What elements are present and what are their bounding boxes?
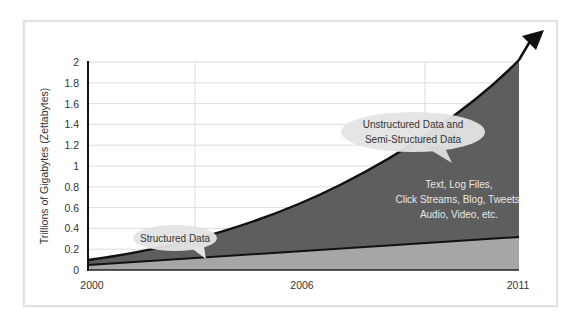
svg-text:2: 2 — [73, 56, 79, 68]
svg-text:1: 1 — [73, 160, 79, 172]
svg-text:0.6: 0.6 — [64, 202, 79, 214]
svg-text:Text, Log Files,: Text, Log Files, — [425, 179, 492, 190]
x-tick-2006: 2006 — [290, 279, 314, 291]
y-tick-labels: 0 0.2 0.4 0.6 0.8 1 1.2 1.4 1.6 1.8 2 — [64, 56, 79, 276]
svg-text:0.8: 0.8 — [64, 181, 79, 193]
svg-text:1.8: 1.8 — [64, 77, 79, 89]
x-tick-2000: 2000 — [80, 279, 104, 291]
svg-text:Audio, Video, etc.: Audio, Video, etc. — [420, 209, 498, 220]
area-chart: 0 0.2 0.4 0.6 0.8 1 1.2 1.4 1.6 1.8 2 20… — [0, 0, 577, 322]
svg-text:0.2: 0.2 — [64, 243, 79, 255]
svg-text:1.2: 1.2 — [64, 139, 79, 151]
unstructured-label-line1: Unstructured Data and — [363, 119, 464, 130]
unstructured-label-line2: Semi-Structured Data — [365, 134, 462, 145]
svg-text:0.4: 0.4 — [64, 222, 79, 234]
svg-text:1.6: 1.6 — [64, 98, 79, 110]
x-tick-2011: 2011 — [507, 279, 530, 291]
svg-text:0: 0 — [73, 264, 79, 276]
structured-data-label: Structured Data — [140, 233, 210, 244]
svg-text:1.4: 1.4 — [64, 118, 79, 130]
y-axis-label: Trillions of Gigabytes (Zettabytes) — [38, 88, 50, 245]
svg-text:Click Streams, Blog, Tweets,: Click Streams, Blog, Tweets, — [395, 194, 522, 205]
